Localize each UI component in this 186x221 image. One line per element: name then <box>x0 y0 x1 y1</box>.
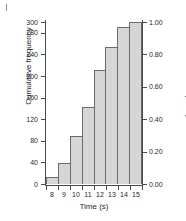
x-axis-tick <box>70 186 71 190</box>
right-axis-tick-label: 1.00 <box>149 19 163 26</box>
right-axis-tick-label: 0.00 <box>149 181 163 188</box>
left-y-axis-title: Cumulative frequency <box>25 0 33 141</box>
x-axis-tick <box>94 186 95 190</box>
left-axis-tick-label: 40 <box>30 159 38 166</box>
bar-series <box>46 22 142 184</box>
x-axis-tick-label: 15 <box>129 191 143 198</box>
right-axis-tick <box>143 152 147 153</box>
right-axis-tick-label: 0.40 <box>149 116 163 123</box>
left-axis-tick <box>41 33 45 34</box>
right-axis-line <box>142 20 143 186</box>
right-y-axis-title: Cumulative relative frequency <box>185 0 186 141</box>
x-axis-tick <box>106 186 107 190</box>
right-axis-tick-label: 0.60 <box>149 83 163 90</box>
left-axis-tick <box>41 98 45 99</box>
corner-artifact-mark <box>6 4 7 11</box>
x-axis-tick <box>58 186 59 190</box>
right-axis-tick-label: 0.80 <box>149 51 163 58</box>
right-axis-tick <box>143 87 147 88</box>
left-axis-tick <box>41 54 45 55</box>
cumulative-frequency-chart: 04080120160200240280300 0.000.200.400.60… <box>0 0 186 221</box>
left-axis-tick <box>41 184 45 185</box>
x-axis-tick <box>118 186 119 190</box>
left-axis-tick <box>41 76 45 77</box>
left-axis-tick <box>41 141 45 142</box>
left-axis-tick <box>41 119 45 120</box>
x-axis-title: Time (s) <box>45 203 143 211</box>
left-axis-tick <box>41 162 45 163</box>
right-axis-tick <box>143 119 147 120</box>
right-axis-tick <box>143 184 147 185</box>
x-axis-tick <box>82 186 83 190</box>
left-axis-tick <box>41 22 45 23</box>
left-axis-tick-label: 0 <box>34 181 38 188</box>
plot-area <box>46 22 142 184</box>
right-axis-tick <box>143 22 147 23</box>
bar <box>129 22 142 184</box>
x-axis-tick <box>142 186 143 190</box>
right-axis-tick <box>143 54 147 55</box>
right-axis-tick-label: 0.20 <box>149 148 163 155</box>
x-axis-tick <box>46 186 47 190</box>
x-axis-tick <box>130 186 131 190</box>
